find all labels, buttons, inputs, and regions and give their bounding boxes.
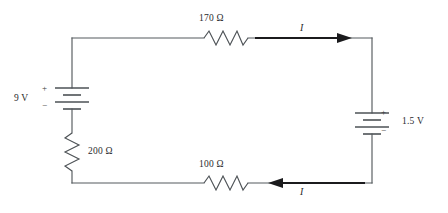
battery-9v-minus-sign: − [42, 101, 47, 110]
battery-1p5v-plus-sign: + [381, 108, 386, 117]
resistor-170-ohm-symbol [204, 31, 248, 45]
resistor-100-ohm-symbol [204, 176, 248, 190]
battery-1p5v-label: 1.5 V [402, 116, 424, 126]
resistor-200-ohm-symbol [65, 133, 79, 171]
battery-1p5v-minus-sign: − [381, 126, 386, 135]
current-arrow-top-glyph [255, 33, 352, 43]
current-arrow-bottom-label: I [300, 186, 304, 197]
battery-9v-label: 9 V [14, 93, 28, 103]
resistor-170-ohm-label: 170 Ω [199, 13, 224, 23]
circuit-diagram-figure: 170 Ω 100 Ω 200 Ω 9 V 1.5 V I I + − + − [0, 0, 448, 213]
current-arrow-top-label: I [300, 22, 304, 33]
resistor-100-ohm-label: 100 Ω [199, 159, 224, 169]
battery-9v-plus-sign: + [42, 84, 47, 93]
resistor-200-ohm-label: 200 Ω [88, 146, 113, 156]
current-arrow-bottom-glyph [268, 178, 365, 188]
